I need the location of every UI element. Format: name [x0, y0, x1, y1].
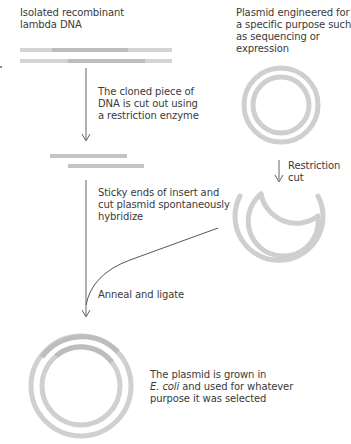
edge-mark	[0, 66, 2, 68]
label-line: hybridize	[98, 211, 230, 223]
label-line: Anneal and ligate	[98, 289, 184, 301]
label-line: Isolated recombinant	[20, 7, 124, 19]
arrow-restriction-cut	[275, 160, 283, 182]
label-line: Plasmid engineered for	[236, 7, 351, 19]
label-line: as sequencing or	[236, 31, 351, 43]
label-line: Sticky ends of insert and	[98, 187, 230, 199]
recombinant-plasmid	[31, 336, 131, 436]
excised-insert-fragment	[50, 154, 144, 168]
label-final: The plasmid is grown in E. coli and used…	[150, 369, 293, 405]
label-text: and used for whatever	[179, 381, 293, 392]
label-line: a restriction enzyme	[98, 110, 199, 122]
lambda-dna-strands	[20, 48, 172, 63]
label-sticky-ends: Sticky ends of insert and cut plasmid sp…	[98, 187, 230, 223]
label-line: The cloned piece of	[98, 86, 199, 98]
label-line: Restriction	[288, 160, 340, 172]
label-line: purpose it was selected	[150, 393, 293, 405]
arrow-cut-out	[82, 68, 90, 141]
engineered-plasmid	[244, 68, 318, 142]
organism-name: E. coli	[150, 381, 179, 392]
label-line: E. coli and used for whatever	[150, 381, 293, 393]
label-line: cut plasmid spontaneously	[98, 199, 230, 211]
label-restriction-cut: Restriction cut	[288, 160, 340, 184]
label-line: lambda DNA	[20, 19, 124, 31]
label-line: a specific purpose such	[236, 19, 351, 31]
label-cut-out: The cloned piece of DNA is cut out using…	[98, 86, 199, 122]
cut-plasmid	[235, 194, 323, 260]
label-line: The plasmid is grown in	[150, 369, 293, 381]
label-line: DNA is cut out using	[98, 98, 199, 110]
label-lambda-dna: Isolated recombinant lambda DNA	[20, 7, 124, 31]
label-plasmid-engineered: Plasmid engineered for a specific purpos…	[236, 7, 351, 55]
label-line: expression	[236, 43, 351, 55]
label-anneal: Anneal and ligate	[98, 289, 184, 301]
label-line: cut	[288, 172, 340, 184]
